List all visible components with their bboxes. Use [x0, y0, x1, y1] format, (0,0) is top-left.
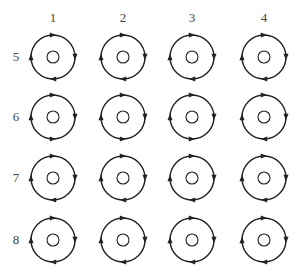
row-label: 6: [9, 109, 23, 125]
arrowhead-down-icon: [283, 175, 288, 181]
arrowhead-left-icon: [120, 197, 126, 202]
arrowhead-up-icon: [28, 175, 33, 181]
arrowhead-up-icon: [167, 54, 172, 60]
arrowhead-up-icon: [98, 114, 103, 120]
arrowhead-down-icon: [142, 175, 147, 181]
arrowhead-right-icon: [50, 32, 56, 37]
arrowhead-down-icon: [283, 237, 288, 243]
arrowhead-up-icon: [239, 175, 244, 181]
arrowhead-up-icon: [98, 237, 103, 243]
inner-circle: [117, 172, 129, 184]
arrowhead-down-icon: [72, 114, 77, 120]
arrowhead-up-icon: [28, 237, 33, 243]
vortex-cell: [234, 27, 294, 87]
arrowhead-right-icon: [50, 215, 56, 220]
vortex-cell: [162, 87, 222, 147]
vortex-cell: [23, 148, 83, 208]
arrowhead-up-icon: [239, 237, 244, 243]
arrowhead-left-icon: [120, 76, 126, 81]
arrowhead-down-icon: [72, 175, 77, 181]
vortex-cell: [162, 148, 222, 208]
inner-circle: [186, 234, 198, 246]
arrowhead-right-icon: [120, 153, 126, 158]
arrowhead-down-icon: [72, 237, 77, 243]
arrowhead-left-icon: [261, 259, 267, 264]
vortex-cell: [93, 148, 153, 208]
row-label: 5: [9, 49, 23, 65]
vortex-cell: [93, 87, 153, 147]
inner-circle: [117, 111, 129, 123]
arrowhead-right-icon: [120, 215, 126, 220]
arrowhead-right-icon: [189, 153, 195, 158]
row-label: 8: [9, 232, 23, 248]
arrowhead-down-icon: [211, 175, 216, 181]
arrowhead-left-icon: [189, 76, 195, 81]
inner-circle: [186, 111, 198, 123]
row-label: 7: [9, 170, 23, 186]
outer-circle: [101, 95, 145, 139]
vortex-cell: [162, 27, 222, 87]
arrowhead-right-icon: [50, 153, 56, 158]
column-label: 1: [43, 10, 63, 26]
arrowhead-down-icon: [142, 237, 147, 243]
vortex-cell: [93, 27, 153, 87]
arrowhead-up-icon: [98, 54, 103, 60]
outer-circle: [31, 35, 75, 79]
vortex-cell: [162, 210, 222, 270]
outer-circle: [170, 218, 214, 262]
arrowhead-down-icon: [211, 54, 216, 60]
arrowhead-up-icon: [239, 54, 244, 60]
arrowhead-left-icon: [189, 197, 195, 202]
outer-circle: [242, 218, 286, 262]
arrowhead-up-icon: [167, 114, 172, 120]
arrowhead-up-icon: [239, 114, 244, 120]
arrowhead-up-icon: [167, 237, 172, 243]
vortex-cell: [93, 210, 153, 270]
inner-circle: [47, 234, 59, 246]
inner-circle: [258, 234, 270, 246]
vortex-cell: [23, 210, 83, 270]
inner-circle: [47, 172, 59, 184]
arrowhead-left-icon: [50, 76, 56, 81]
outer-circle: [170, 35, 214, 79]
arrowhead-left-icon: [261, 197, 267, 202]
arrowhead-down-icon: [283, 54, 288, 60]
outer-circle: [101, 218, 145, 262]
arrowhead-right-icon: [261, 153, 267, 158]
inner-circle: [117, 51, 129, 63]
inner-circle: [186, 172, 198, 184]
column-label: 4: [254, 10, 274, 26]
arrowhead-down-icon: [283, 114, 288, 120]
arrowhead-right-icon: [189, 92, 195, 97]
outer-circle: [242, 156, 286, 200]
arrowhead-down-icon: [142, 54, 147, 60]
inner-circle: [258, 51, 270, 63]
inner-circle: [186, 51, 198, 63]
inner-circle: [117, 234, 129, 246]
outer-circle: [101, 35, 145, 79]
arrowhead-left-icon: [189, 259, 195, 264]
vortex-cell: [23, 27, 83, 87]
arrowhead-up-icon: [28, 114, 33, 120]
arrowhead-right-icon: [50, 92, 56, 97]
vortex-cell: [234, 87, 294, 147]
arrowhead-down-icon: [142, 114, 147, 120]
arrowhead-left-icon: [50, 197, 56, 202]
arrowhead-right-icon: [261, 32, 267, 37]
arrowhead-down-icon: [211, 237, 216, 243]
column-label: 2: [113, 10, 133, 26]
inner-circle: [47, 51, 59, 63]
inner-circle: [258, 111, 270, 123]
arrowhead-up-icon: [167, 175, 172, 181]
arrowhead-up-icon: [98, 175, 103, 181]
outer-circle: [31, 95, 75, 139]
arrowhead-up-icon: [28, 54, 33, 60]
arrowhead-right-icon: [261, 92, 267, 97]
vortex-cell: [234, 210, 294, 270]
inner-circle: [47, 111, 59, 123]
arrowhead-down-icon: [72, 54, 77, 60]
arrowhead-right-icon: [189, 215, 195, 220]
vortex-cell: [23, 87, 83, 147]
inner-circle: [258, 172, 270, 184]
arrowhead-left-icon: [50, 259, 56, 264]
